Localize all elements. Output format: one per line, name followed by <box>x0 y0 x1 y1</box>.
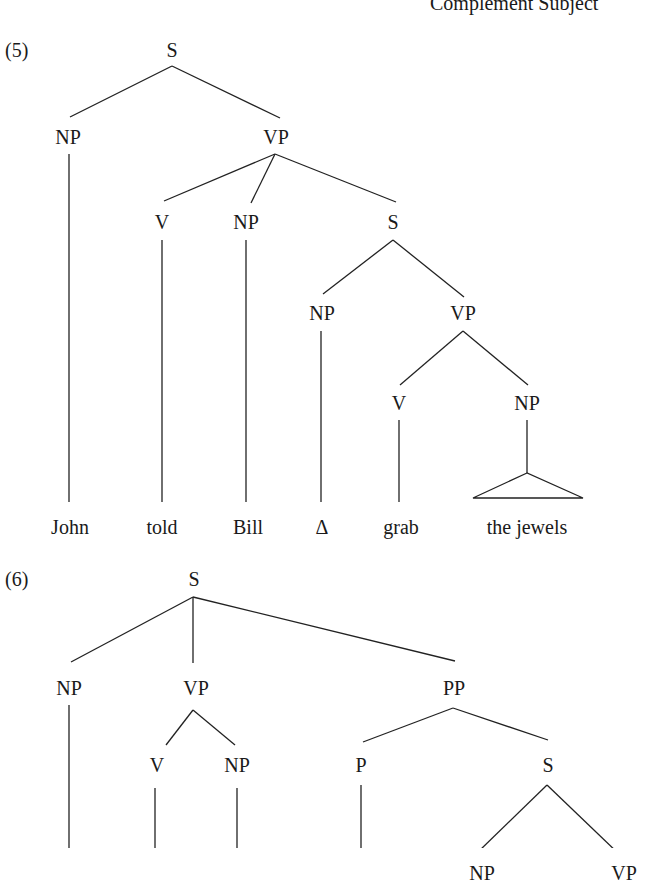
node-s-root: S <box>166 40 177 60</box>
node-vp-complement: VP <box>450 303 476 323</box>
leaf-word: Bill <box>233 517 263 537</box>
node-vp-main: VP <box>263 127 289 147</box>
leaf-word: grab <box>383 517 419 537</box>
example-number-5: (5) <box>5 40 28 60</box>
leaf-delta: Δ <box>316 517 329 537</box>
node-s-complement: S <box>542 755 553 775</box>
node-np-object: NP <box>224 755 250 775</box>
node-v-complement: V <box>392 393 406 413</box>
node-v-main: V <box>150 755 164 775</box>
leaf-word: John <box>51 517 89 537</box>
node-np-complement-object: NP <box>514 393 540 413</box>
node-s-root: S <box>188 569 199 589</box>
leaf-word: told <box>146 517 177 537</box>
node-np-subject: NP <box>56 678 82 698</box>
node-np-subject: NP <box>55 127 81 147</box>
node-vp-complement: VP <box>611 863 637 883</box>
node-np-complement-subject: NP <box>469 863 495 883</box>
example-number-6: (6) <box>5 569 28 589</box>
node-s-complement: S <box>387 212 398 232</box>
node-pp: PP <box>443 678 465 698</box>
leaf-word: the jewels <box>487 517 568 537</box>
node-np-object: NP <box>233 212 259 232</box>
node-vp-main: VP <box>183 678 209 698</box>
node-p: P <box>355 755 366 775</box>
node-np-complement-subject: NP <box>309 303 335 323</box>
node-v-main: V <box>155 212 169 232</box>
